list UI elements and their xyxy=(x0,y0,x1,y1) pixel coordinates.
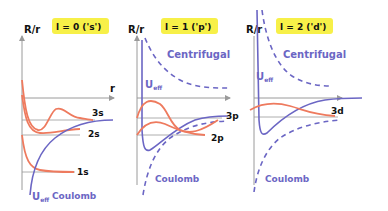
orbital-1s-curve xyxy=(22,135,74,172)
ueff-label: Ueff xyxy=(256,71,273,83)
orbital-2p-curve xyxy=(137,122,205,135)
coulomb-curve xyxy=(30,120,113,195)
coulomb-label: Coulomb xyxy=(52,191,97,201)
y-axis-label: R/r xyxy=(128,24,144,35)
panel-s: R/r l = 0 ('s') r 3s 2s 1s Ueff Coulomb xyxy=(22,18,115,203)
panel-d: R/r l = 2 ('d') Centrifugal Ueff Coulomb… xyxy=(246,10,362,192)
orbital-label-1s: 1s xyxy=(77,167,89,177)
panel-p: R/r l = 1 ('p') Centrifugal Ueff Coulomb… xyxy=(128,18,239,195)
ueff-label: Ueff xyxy=(145,79,162,91)
orbital-3p-curve xyxy=(137,101,218,132)
coulomb-label: Coulomb xyxy=(265,174,310,184)
centrifugal-curve xyxy=(145,38,228,88)
centrifugal-label: Centrifugal xyxy=(167,49,230,60)
orbital-3s-curve xyxy=(22,80,93,130)
centrifugal-label: Centrifugal xyxy=(283,49,346,60)
tag-label: l = 1 ('p') xyxy=(165,22,211,32)
x-axis-label: r xyxy=(110,83,115,94)
y-axis-label: R/r xyxy=(24,24,40,35)
orbital-label-3s: 3s xyxy=(92,108,104,118)
y-axis-label: R/r xyxy=(246,24,262,35)
tag-label: l = 0 ('s') xyxy=(56,22,101,32)
tag-label: l = 2 ('d') xyxy=(280,22,326,32)
orbital-label-3d: 3d xyxy=(331,106,344,116)
hydrogen-radial-diagram: R/r l = 0 ('s') r 3s 2s 1s Ueff Coulomb … xyxy=(0,0,388,211)
ueff-label: Ueff xyxy=(32,191,49,203)
coulomb-label: Coulomb xyxy=(155,174,200,184)
orbital-3d-curve xyxy=(250,104,335,116)
orbital-label-2p: 2p xyxy=(211,133,224,143)
orbital-label-2s: 2s xyxy=(88,129,100,139)
orbital-label-3p: 3p xyxy=(226,111,239,121)
